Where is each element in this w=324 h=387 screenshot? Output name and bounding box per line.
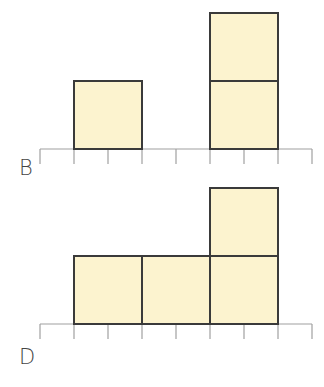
square-cell xyxy=(210,188,278,256)
diagram-canvas xyxy=(0,0,324,387)
square-cell xyxy=(74,81,142,149)
diagram-label-b: B xyxy=(19,158,33,179)
square-cell xyxy=(142,256,210,324)
square-cell xyxy=(210,256,278,324)
square-cell xyxy=(74,256,142,324)
square-cell xyxy=(210,13,278,81)
square-cell xyxy=(210,81,278,149)
diagram-label-d: D xyxy=(19,347,35,368)
